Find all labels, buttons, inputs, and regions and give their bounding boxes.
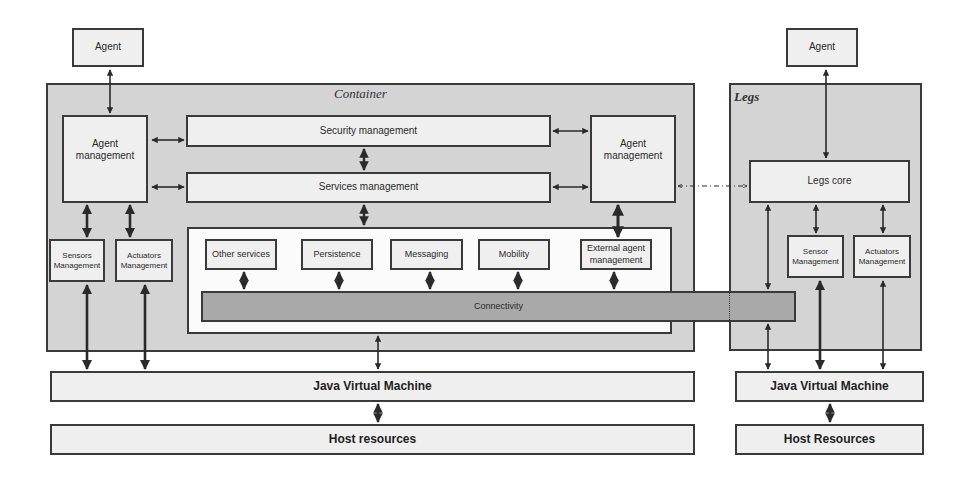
host-label: Host Resources [784,432,875,447]
agent-box-left: Agent [72,28,144,67]
agent-management-right-label: Agent management [603,138,663,163]
service-label: Mobility [499,249,530,260]
agent-management-left-label: Agent management [75,138,135,163]
host-resources-right: Host Resources [735,424,924,455]
sensors-management-label: Sensors Management [51,251,103,271]
security-management: Security management [186,115,551,147]
actuators-management-label: Actuators Management [117,251,171,271]
service-label: External agent management [582,243,650,266]
container-title: Container [334,86,387,102]
services-management-label: Services management [319,181,419,194]
service-external-agent-management: External agent management [580,239,652,270]
service-mobility: Mobility [478,239,550,270]
service-other: Other services [205,239,277,270]
sensor-management-legs: Sensor Management [787,235,844,278]
services-management: Services management [186,172,551,203]
jvm-left: Java Virtual Machine [50,371,695,402]
agent-label: Agent [809,41,835,54]
host-resources-left: Host resources [50,424,695,455]
actuators-management-legs: Actuators Management [853,235,911,278]
actuators-management: Actuators Management [115,239,173,282]
legs-title: Legs [734,89,759,105]
sensor-management-label: Sensor Management [789,247,842,267]
actuators-management-label: Actuators Management [855,247,909,267]
host-label: Host resources [329,432,416,447]
service-label: Messaging [405,249,449,260]
service-label: Other services [212,249,270,260]
agent-box-right: Agent [786,28,858,67]
jvm-label: Java Virtual Machine [770,379,889,394]
legs-core: Legs core [749,160,910,203]
agent-management-right: Agent management [590,115,676,203]
agent-label: Agent [95,41,121,54]
connectivity-label: Connectivity [474,301,523,312]
agent-management-left: Agent management [62,115,148,203]
legs-core-label: Legs core [808,175,852,188]
jvm-right: Java Virtual Machine [735,371,924,402]
security-management-label: Security management [320,125,417,138]
jvm-label: Java Virtual Machine [313,379,432,394]
service-messaging: Messaging [390,239,463,270]
sensors-management: Sensors Management [49,239,105,282]
connectivity-bar: Connectivity [201,291,796,322]
legs-border-dotted [729,293,730,320]
service-label: Persistence [313,249,360,260]
service-persistence: Persistence [301,239,373,270]
